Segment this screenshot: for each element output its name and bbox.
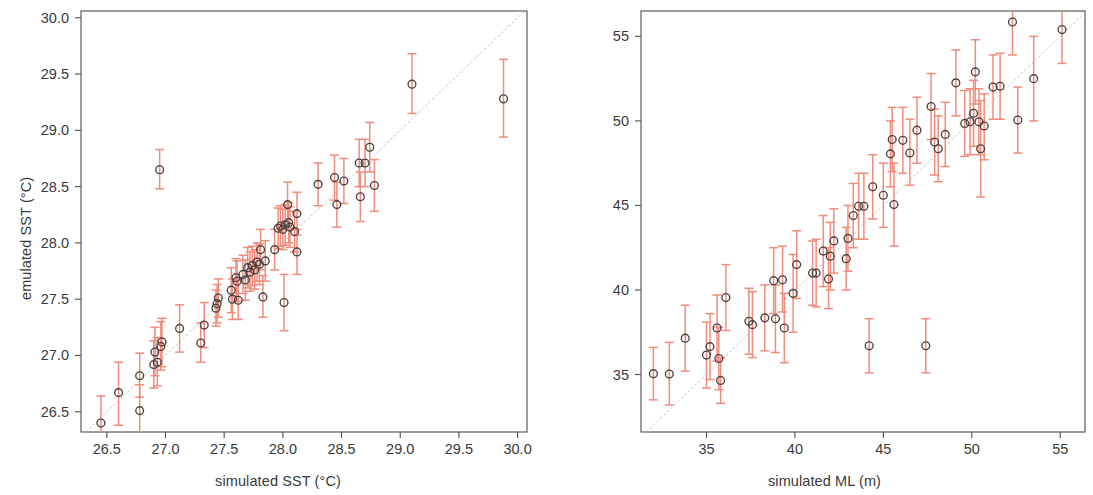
data-point-marker [261,257,269,265]
data-point-marker [971,68,979,76]
x-tick-label: 28.0 [269,441,297,457]
y-tick-label: 28.5 [41,179,69,195]
data-point-marker [780,324,788,332]
data-point-marker [922,342,930,350]
x-tick-label: 30.0 [503,441,531,457]
data-point-marker [970,109,978,117]
data-point-marker [284,201,292,209]
y-axis-ticks: 26.527.027.528.028.529.029.530.0 [41,10,81,420]
data-point-marker [869,183,877,191]
data-point-marker [830,237,838,245]
data-point-marker [371,182,379,190]
y-tick-label: 26.5 [41,404,69,420]
data-point-marker [500,95,508,103]
data-point-marker [713,324,721,332]
data-point-marker [842,255,850,263]
data-point-marker [136,372,144,380]
data-point-marker [333,201,341,209]
data-point-marker [234,296,242,304]
data-point-marker [888,136,896,144]
data-point-marker [1058,26,1066,34]
error-bar [1058,11,1067,63]
data-point-marker [749,321,757,329]
y-tick-label: 27.5 [41,291,69,307]
data-point-marker [97,419,105,427]
data-point-marker [826,252,834,260]
plot-frame [641,11,1085,432]
panel-sst: 26.527.027.528.028.529.029.530.026.527.0… [0,0,556,495]
data-point-marker [980,122,988,130]
error-bars-group [96,54,508,432]
data-point-marker [158,338,166,346]
data-point-marker [779,276,787,284]
identity-reference-line [646,13,1085,432]
data-point-marker [176,325,184,333]
x-tick-label: 27.5 [210,441,238,457]
x-axis-title-sst: simulated SST (°C) [0,473,556,489]
data-point-marker [849,212,857,220]
data-point-marker [293,210,301,218]
data-point-marker [681,334,689,342]
y-tick-label: 50 [613,113,629,129]
data-point-marker [717,377,725,385]
data-point-marker [819,247,827,255]
data-point-marker [890,201,898,209]
data-point-marker [899,136,907,144]
data-point-marker [789,289,797,297]
figure-container: 26.527.027.528.028.529.029.530.026.527.0… [0,0,1093,495]
data-point-marker [913,126,921,134]
panel-ml: 35404550553540455055 emulated ML (m) sim… [556,0,1093,495]
x-tick-label: 26.5 [93,441,121,457]
data-point-marker [257,246,265,254]
x-tick-label: 29.0 [386,441,414,457]
data-point-marker [214,294,222,302]
data-point-marker [227,286,235,294]
y-tick-label: 30.0 [41,10,69,26]
data-point-marker [1030,75,1038,83]
data-point-marker [879,191,887,199]
x-tick-label: 27.0 [151,441,179,457]
data-point-marker [366,143,374,151]
data-point-marker [996,82,1004,90]
y-tick-label: 35 [613,367,629,383]
data-point-marker [966,118,974,126]
data-point-marker [665,370,673,378]
data-point-marker [844,235,852,243]
data-point-marker [241,276,249,284]
data-point-marker [865,342,873,350]
x-tick-label: 50 [964,441,980,457]
data-point-marker [153,358,161,366]
data-point-marker [906,149,914,157]
data-point-marker [722,294,730,302]
data-point-marker [356,193,364,201]
y-axis-title-sst: emulated SST (°C) [18,177,34,300]
data-point-marker [706,343,714,351]
data-point-marker [941,131,949,139]
x-tick-label: 29.5 [445,441,473,457]
data-point-marker [649,370,657,378]
plot-frame [81,11,527,432]
y-tick-label: 45 [613,197,629,213]
data-point-marker [156,166,164,174]
y-axis-ticks: 3540455055 [613,28,641,382]
data-point-marker [271,246,279,254]
data-point-marker [772,315,780,323]
data-point-marker [812,269,820,277]
data-point-marker [331,174,339,182]
data-point-marker [408,80,416,88]
data-points-group [649,18,1065,384]
data-point-marker [927,103,935,111]
x-tick-label: 28.5 [327,441,355,457]
y-tick-label: 27.0 [41,347,69,363]
data-point-marker [115,389,123,397]
scatter-plot-sst: 26.527.027.528.028.529.029.530.026.527.0… [0,0,556,495]
x-axis-ticks: 3540455055 [698,432,1068,457]
data-point-marker [952,79,960,87]
y-tick-label: 55 [613,28,629,44]
data-point-marker [136,407,144,415]
x-axis-title-ml: simulated ML (m) [556,473,1093,489]
data-point-marker [259,293,267,301]
data-point-marker [293,248,301,256]
data-point-marker [934,145,942,153]
data-point-marker [793,261,801,269]
